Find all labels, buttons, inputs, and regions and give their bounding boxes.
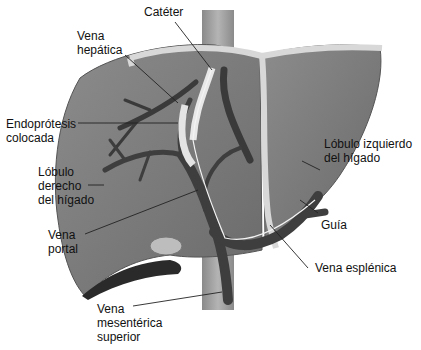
label-guia: Guía (321, 218, 347, 232)
label-vena-portal: Vena portal (48, 228, 78, 256)
label-lobulo-derecho: Lóbulo derecho del hígado (38, 165, 94, 207)
label-vena-esplenica: Vena esplénica (315, 261, 396, 275)
label-cateter: Catéter (144, 5, 183, 19)
label-vena-mesenterica: Vena mesentérica superior (97, 302, 162, 344)
label-lobulo-izquierdo: Lóbulo izquierdo del hígado (324, 137, 412, 165)
label-endoprotesis: Endoprótesis colocada (6, 117, 76, 145)
label-vena-hepatica: Vena hepática (77, 29, 122, 57)
liver-tips-diagram: Catéter Vena hepática Endoprótesis coloc… (0, 0, 421, 350)
